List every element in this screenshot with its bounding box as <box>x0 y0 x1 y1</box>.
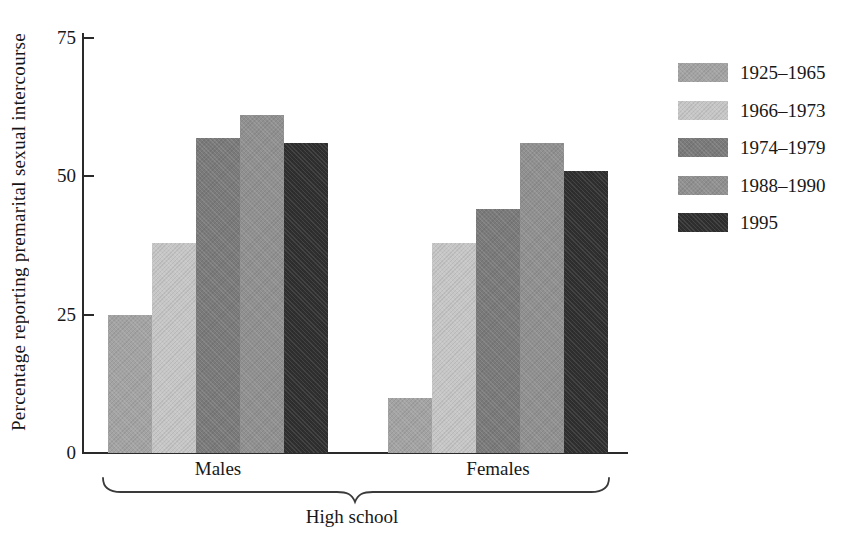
legend-label: 1988–1990 <box>740 176 826 195</box>
y-axis-line <box>82 33 84 453</box>
legend-item-1974-1979: 1974–1979 <box>678 138 826 157</box>
high-school-brace <box>101 474 613 508</box>
y-axis-title: Percentage reporting premarital sexual i… <box>8 6 30 458</box>
figure-premarital-intercourse-chart: Percentage reporting premarital sexual i… <box>0 0 842 537</box>
legend-swatch <box>678 176 728 195</box>
legend-swatch <box>678 101 728 120</box>
bar-males-1974-1979 <box>196 138 240 453</box>
tick-mark-75 <box>82 37 94 39</box>
brace-caption: High school <box>252 506 452 528</box>
bar-females-1995 <box>564 171 608 453</box>
legend-item-1995: 1995 <box>678 213 778 232</box>
legend-label: 1974–1979 <box>740 138 826 157</box>
tick-mark-50 <box>82 175 94 177</box>
tick-mark-25 <box>82 314 94 316</box>
tick-label-75: 75 <box>36 27 76 49</box>
bar-females-1925-1965 <box>388 398 432 453</box>
legend-swatch <box>678 213 728 232</box>
bar-males-1966-1973 <box>152 243 196 453</box>
tick-label-25: 25 <box>36 304 76 326</box>
bar-females-1988-1990 <box>520 143 564 453</box>
legend-item-1925-1965: 1925–1965 <box>678 63 826 82</box>
tick-label-50: 50 <box>36 165 76 187</box>
tick-label-0: 0 <box>36 442 76 464</box>
legend-item-1966-1973: 1966–1973 <box>678 101 826 120</box>
bar-males-1995 <box>284 143 328 453</box>
bar-females-1974-1979 <box>476 209 520 453</box>
legend-swatch <box>678 63 728 82</box>
legend-label: 1995 <box>740 213 778 232</box>
legend-item-1988-1990: 1988–1990 <box>678 176 826 195</box>
legend-swatch <box>678 138 728 157</box>
legend-label: 1966–1973 <box>740 101 826 120</box>
legend-label: 1925–1965 <box>740 63 826 82</box>
bar-males-1988-1990 <box>240 115 284 453</box>
bar-females-1966-1973 <box>432 243 476 453</box>
bar-males-1925-1965 <box>108 315 152 453</box>
